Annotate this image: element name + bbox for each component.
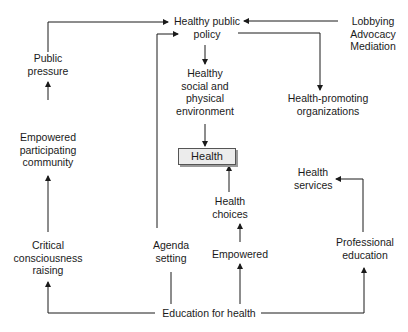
- node-lobbying-advocacy-mediation: Lobbying Advocacy Mediation: [340, 15, 406, 53]
- node-health-choices: Health choices: [210, 195, 250, 220]
- node-agenda-setting: Agenda setting: [146, 239, 196, 264]
- node-empowered: Empowered: [210, 248, 270, 261]
- node-public-pressure: Public pressure: [20, 52, 76, 77]
- node-education-for-health: Education for health: [158, 307, 260, 320]
- node-health-services: Health services: [294, 166, 332, 191]
- node-health: Health: [178, 148, 236, 165]
- node-professional-education: Professional education: [330, 236, 400, 261]
- node-empowered-participating-community: Empowered participating community: [10, 131, 86, 169]
- node-healthy-environment: Healthy social and physical environment: [170, 67, 240, 117]
- node-critical-consciousness-raising: Critical consciousness raising: [10, 239, 86, 277]
- node-health-promoting-organizations: Health-promoting organizations: [276, 92, 380, 117]
- node-healthy-public-policy: Healthy public policy: [172, 15, 242, 40]
